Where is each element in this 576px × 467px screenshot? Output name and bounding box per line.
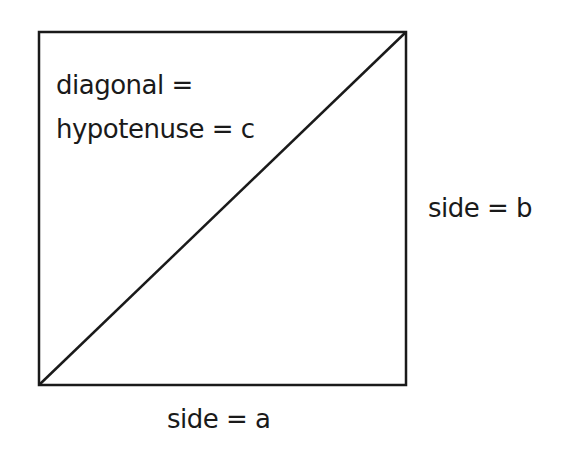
- hypotenuse-label: hypotenuse = c: [56, 116, 255, 142]
- diagonal-label: diagonal =: [56, 72, 193, 98]
- side-b-label: side = b: [428, 195, 532, 221]
- side-a-label: side = a: [167, 406, 271, 432]
